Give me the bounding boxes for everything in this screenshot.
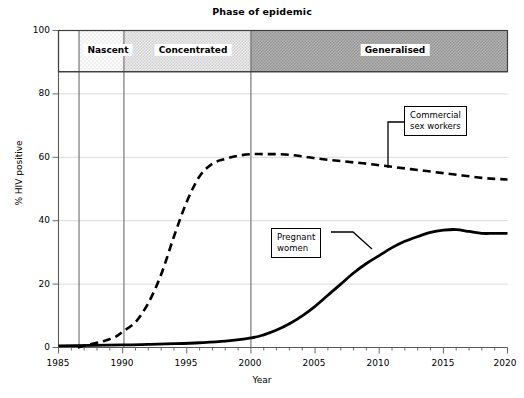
plot-frame xyxy=(59,31,508,348)
callout-line-1: Commercial xyxy=(410,110,461,121)
band-label-concentrated: Concentrated xyxy=(155,44,232,56)
band-label-nascent: Nascent xyxy=(83,44,132,56)
axis-ticks xyxy=(53,31,508,354)
chart-figure: Phase of epidemic % HIV positive Year 10… xyxy=(0,0,524,398)
callout-leader-lines xyxy=(331,122,404,249)
phase-divider-lines xyxy=(79,31,251,348)
plot-area xyxy=(0,0,524,398)
callout-line-2: sex workers xyxy=(410,121,461,132)
callout-line-1: Pregnant xyxy=(277,232,315,243)
callout-commercial-sex-workers: Commercial sex workers xyxy=(404,106,467,136)
callout-line-2: women xyxy=(277,243,315,254)
band-label-generalised: Generalised xyxy=(361,44,430,56)
callout-pregnant-women: Pregnant women xyxy=(271,228,321,258)
